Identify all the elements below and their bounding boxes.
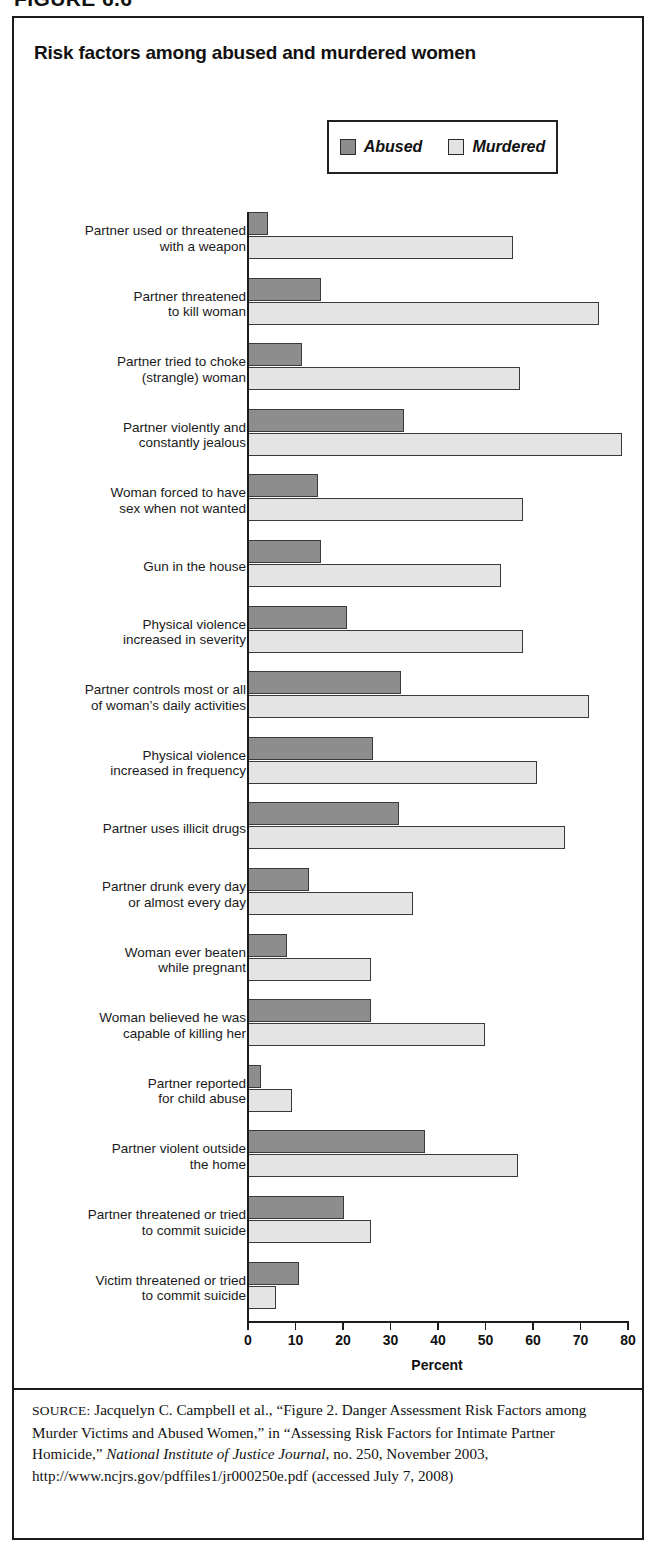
x-axis-tick	[485, 1323, 487, 1330]
category-label: Physical violence increased in severity	[31, 617, 246, 648]
bar-abused	[247, 737, 373, 760]
category-label: Woman ever beaten while pregnant	[31, 945, 246, 976]
category-label: Partner threatened to kill woman	[31, 289, 246, 320]
bar-abused	[247, 868, 309, 891]
figure-number: FIGURE 6.6	[14, 0, 132, 13]
category-label: Woman believed he was capable of killing…	[31, 1010, 246, 1041]
bar-murdered	[247, 1154, 518, 1177]
bar-murdered	[247, 761, 537, 784]
bar-abused	[247, 540, 321, 563]
x-axis-tick	[627, 1323, 629, 1330]
bar-murdered	[247, 826, 565, 849]
x-axis-tick-label: 10	[288, 1332, 304, 1348]
figure-panel: Risk factors among abused and murdered w…	[12, 16, 644, 1540]
bar-abused	[247, 802, 399, 825]
x-axis-tick	[390, 1323, 392, 1330]
bar-murdered	[247, 564, 501, 587]
category-label: Partner violently and constantly jealous	[31, 420, 246, 451]
bar-abused	[247, 343, 302, 366]
category-label: Physical violence increased in frequency	[31, 748, 246, 779]
x-axis-tick-label: 80	[620, 1332, 636, 1348]
x-axis-title: Percent	[247, 1357, 627, 1373]
bar-abused	[247, 1130, 425, 1153]
bar-murdered	[247, 958, 371, 981]
bar-abused	[247, 934, 287, 957]
bar-murdered	[247, 498, 523, 521]
x-axis-tick-label: 70	[573, 1332, 589, 1348]
category-label: Partner threatened or tried to commit su…	[31, 1207, 246, 1238]
category-label: Partner violent outside the home	[31, 1141, 246, 1172]
bar-abused	[247, 671, 401, 694]
x-axis-tick	[295, 1323, 297, 1330]
bar-murdered	[247, 1089, 292, 1112]
bar-murdered	[247, 302, 599, 325]
category-label: Partner controls most or all of woman’s …	[31, 682, 246, 713]
bar-abused	[247, 212, 268, 235]
x-axis-tick	[247, 1323, 249, 1330]
bar-murdered	[247, 236, 513, 259]
source-divider	[14, 1388, 642, 1390]
bar-chart-plot: Partner used or threatened with a weapon…	[14, 18, 646, 1542]
y-axis-line	[247, 212, 249, 1321]
x-axis-tick	[532, 1323, 534, 1330]
bar-murdered	[247, 1286, 276, 1309]
bar-abused	[247, 474, 318, 497]
x-axis-tick-label: 60	[525, 1332, 541, 1348]
bar-abused	[247, 1065, 261, 1088]
x-axis-tick-label: 40	[430, 1332, 446, 1348]
category-label: Partner tried to choke (strangle) woman	[31, 354, 246, 385]
bar-abused	[247, 1262, 299, 1285]
bar-abused	[247, 409, 404, 432]
bar-abused	[247, 606, 347, 629]
x-axis-tick-label: 20	[335, 1332, 351, 1348]
category-label: Partner reported for child abuse	[31, 1076, 246, 1107]
x-axis-tick-label: 50	[478, 1332, 494, 1348]
bar-murdered	[247, 367, 520, 390]
bar-murdered	[247, 1220, 371, 1243]
source-journal-name: National Institute of Justice Journal	[106, 1445, 325, 1462]
bar-murdered	[247, 892, 413, 915]
x-axis-tick-label: 30	[383, 1332, 399, 1348]
x-axis-tick	[580, 1323, 582, 1330]
category-label: Partner used or threatened with a weapon	[31, 223, 246, 254]
source-label: SOURCE:	[32, 1403, 90, 1418]
bar-abused	[247, 278, 321, 301]
category-label: Partner drunk every day or almost every …	[31, 879, 246, 910]
bar-abused	[247, 1196, 344, 1219]
category-label: Woman forced to have sex when not wanted	[31, 485, 246, 516]
bar-murdered	[247, 630, 523, 653]
x-axis-tick	[342, 1323, 344, 1330]
category-label: Gun in the house	[31, 559, 246, 575]
bar-murdered	[247, 433, 622, 456]
category-label: Partner uses illicit drugs	[31, 821, 246, 837]
x-axis-tick-label: 0	[244, 1332, 252, 1348]
bar-murdered	[247, 695, 589, 718]
bar-murdered	[247, 1023, 485, 1046]
category-label: Victim threatened or tried to commit sui…	[31, 1273, 246, 1304]
bar-abused	[247, 999, 371, 1022]
source-note: SOURCE: Jacquelyn C. Campbell et al., “F…	[32, 1399, 628, 1486]
x-axis-tick	[437, 1323, 439, 1330]
